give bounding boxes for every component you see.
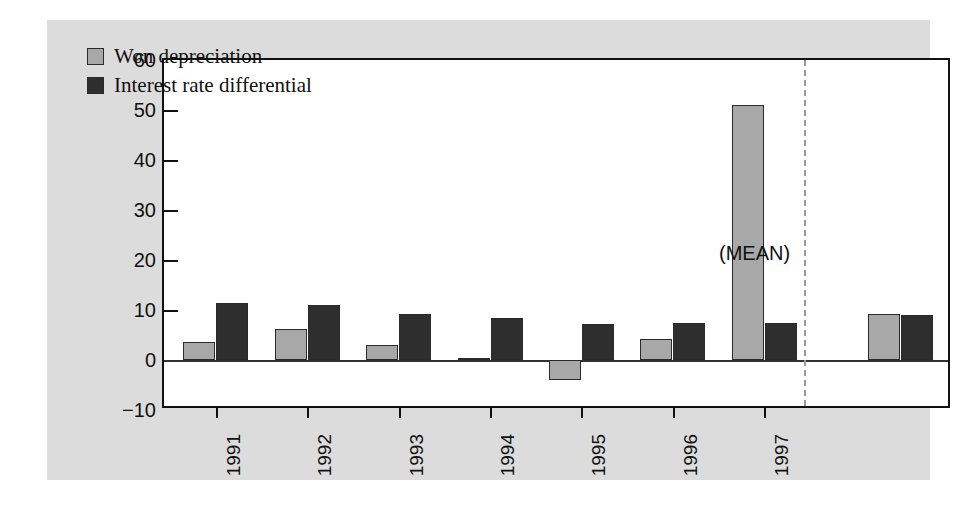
bar-mean-series-1 (901, 315, 933, 360)
y-axis-label: 20 (134, 249, 156, 272)
legend-swatch-interest-rate-differential (87, 77, 104, 94)
x-axis-tick (764, 406, 766, 418)
bar-1996-series-0 (640, 339, 672, 360)
y-axis-label: −10 (122, 399, 156, 422)
bar-1992-series-0 (275, 329, 307, 360)
legend-item: Won depreciation (87, 44, 312, 69)
x-axis-label-1994: 1994 (497, 434, 519, 476)
bar-1995-series-1 (582, 324, 614, 360)
x-axis-label-1997: 1997 (771, 434, 793, 476)
y-axis-tick (164, 310, 178, 312)
x-axis-label-1996: 1996 (680, 434, 702, 476)
x-axis-tick (490, 406, 492, 418)
legend-label-won-depreciation: Won depreciation (114, 44, 262, 69)
bar-1997-series-1 (765, 323, 797, 361)
x-axis-tick (307, 406, 309, 418)
y-axis-tick (164, 260, 178, 262)
x-axis-label-1991: 1991 (223, 434, 245, 476)
plot-area: 6050403020100−10 (162, 58, 950, 408)
bar-1997-series-0 (732, 105, 764, 360)
legend-label-interest-rate-differential: Interest rate differential (114, 73, 312, 98)
x-axis-tick (399, 406, 401, 418)
y-axis-tick (164, 210, 178, 212)
bar-1995-series-0 (549, 360, 581, 380)
y-axis-tick (164, 160, 178, 162)
bar-1993-series-1 (399, 314, 431, 360)
x-axis-label-1993: 1993 (406, 434, 428, 476)
x-axis-label-1995: 1995 (588, 434, 610, 476)
x-axis-tick (216, 406, 218, 418)
legend-swatch-won-depreciation (87, 48, 104, 65)
y-axis-tick (164, 110, 178, 112)
bar-1994-series-0 (458, 358, 490, 361)
bar-1994-series-1 (491, 318, 523, 361)
x-axis-label-1992: 1992 (314, 434, 336, 476)
mean-separator-dashed-line (804, 60, 806, 406)
bar-1992-series-1 (308, 305, 340, 360)
y-axis-label: 40 (134, 149, 156, 172)
legend-item: Interest rate differential (87, 73, 312, 98)
y-axis-label: 30 (134, 199, 156, 222)
mean-group-label: (MEAN) (719, 242, 790, 265)
y-axis-label: 10 (134, 299, 156, 322)
bar-1991-series-1 (216, 303, 248, 361)
x-axis-tick (673, 406, 675, 418)
y-axis-label: 0 (145, 349, 156, 372)
chart-legend: Won depreciation Interest rate different… (87, 44, 312, 102)
bar-1993-series-0 (366, 345, 398, 360)
bar-1996-series-1 (673, 323, 705, 361)
chart-figure-panel: 6050403020100−10 Won depreciation Intere… (47, 20, 930, 480)
bar-1991-series-0 (183, 342, 215, 360)
bar-mean-series-0 (868, 314, 900, 361)
x-axis-tick (581, 406, 583, 418)
